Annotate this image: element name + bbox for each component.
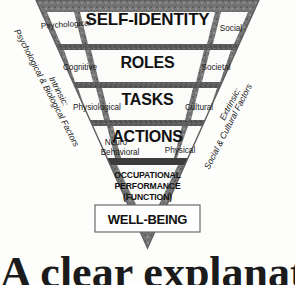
tier-3-left-label: Physiological [73, 103, 121, 112]
tier-4-right-label: Physical [165, 146, 196, 155]
tier-divider-1 [30, 44, 265, 50]
page-caption: A clear explanation [0, 251, 295, 285]
outcome-line-1: OCCUPATIONAL [114, 170, 181, 180]
well-being-label: WELL-BEING [108, 212, 188, 227]
tier-1-center-label: SELF-IDENTITY [86, 10, 211, 29]
tier-divider-2 [40, 82, 255, 88]
outcome-line-3: (FUNCTION) [123, 192, 172, 202]
tier-1-right-label: Social [220, 24, 242, 33]
tier-4-left-label-line2: Behavioral [101, 148, 140, 157]
tier-2-right-label: Societal [201, 63, 230, 72]
tier-2-center-label: ROLES [120, 54, 175, 71]
outcome-line-2: PERFORMANCE [114, 181, 181, 191]
tier-divider-3 [52, 120, 243, 126]
tier-3-center-label: TASKS [121, 91, 174, 108]
tier-3-right-label: Cultural [185, 103, 213, 112]
tier-2-left-label: Cognitive [63, 63, 98, 72]
tier-4-left-label-line1: Neuro [105, 138, 128, 147]
